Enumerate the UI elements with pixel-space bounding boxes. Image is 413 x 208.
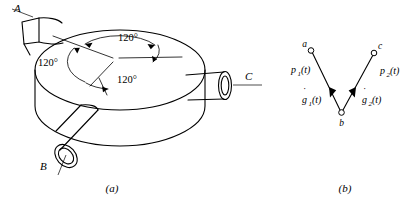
- edge-label-g1-base: g: [302, 94, 307, 105]
- figure-canvas: A C: [0, 0, 413, 208]
- edge-label-g1-arg: (t): [312, 94, 322, 106]
- edge-label-p2: p 2 (t): [379, 65, 400, 79]
- part-b-group: a c b p 1 (t) p 2 (t) ˙ g 1 (t): [290, 39, 400, 195]
- edge-label-p1: p 1 (t): [290, 64, 311, 78]
- edge-label-p1-base: p: [290, 64, 296, 75]
- caption-a: (a): [106, 182, 119, 195]
- port-a-label: A: [13, 2, 21, 14]
- node-c-label: c: [378, 41, 383, 51]
- port-b-label: B: [40, 160, 47, 172]
- edge-label-g1: ˙ g 1 (t): [302, 86, 322, 108]
- port-c-label: C: [245, 70, 253, 82]
- angle-label-bottom: 120°: [117, 74, 137, 85]
- edge-label-g2-arg: (t): [372, 94, 382, 106]
- node-a-label: a: [302, 39, 307, 49]
- edge-label-g2-base: g: [362, 94, 367, 105]
- angle-arcs: [67, 36, 159, 93]
- axis-ticks: [99, 78, 107, 95]
- port-c-tube: [186, 72, 232, 101]
- edge-label-g2: ˙ g 2 (t): [362, 86, 382, 108]
- figure-root: A C: [0, 0, 413, 208]
- port-a-tube: [22, 18, 63, 55]
- angle-label-left: 120°: [38, 57, 58, 68]
- angle-arc-left: [67, 48, 85, 82]
- edge-label-p1-arg: (t): [301, 64, 311, 76]
- edge-label-p2-base: p: [379, 65, 385, 76]
- part-a-group: A C: [12, 2, 262, 195]
- node-a: [308, 48, 314, 54]
- port-b-tube: [50, 105, 98, 172]
- node-c: [371, 50, 377, 56]
- node-b-label: b: [339, 118, 344, 128]
- edge-label-p2-arg: (t): [390, 65, 400, 77]
- angle-label-top: 120°: [118, 32, 138, 43]
- node-b: [339, 110, 345, 116]
- caption-b: (b): [339, 182, 352, 195]
